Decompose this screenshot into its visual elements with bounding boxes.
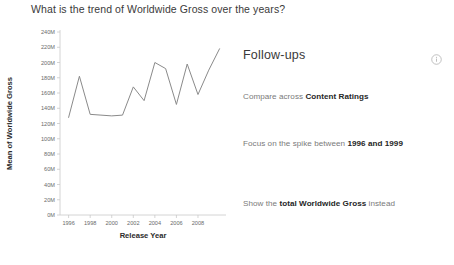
x-axis-title: Release Year (120, 231, 167, 240)
y-tick-label: 100M (41, 136, 55, 142)
line-chart-panel: 0M20M40M60M80M100M120M140M160M180M200M22… (0, 24, 232, 250)
followup-prefix: Compare across (243, 92, 305, 101)
y-tick-label: 180M (41, 75, 55, 81)
y-tick-label: 80M (44, 151, 55, 157)
followup-item[interactable]: Show the total Worldwide Gross instead (243, 197, 443, 210)
x-tick-label: 1996 (62, 220, 74, 226)
y-tick-label: 60M (44, 166, 55, 172)
y-tick-label: 200M (41, 60, 55, 66)
followups-header: Follow-ups (238, 48, 454, 72)
x-tick-label: 2002 (127, 220, 139, 226)
data-series-line (69, 49, 220, 118)
x-tick-label: 2008 (192, 220, 204, 226)
y-axis-ticks: 0M20M40M60M80M100M120M140M160M180M200M22… (41, 29, 60, 218)
y-tick-label: 20M (44, 197, 55, 203)
followup-prefix: Show the (243, 199, 279, 208)
y-tick-label: 40M (44, 182, 55, 188)
y-tick-label: 120M (41, 121, 55, 127)
x-axis-ticks: 1996199820002002200420062008 (62, 215, 204, 226)
chart-followups-screen: What is the trend of Worldwide Gross ove… (0, 0, 454, 265)
followups-panel: Follow-ups Compare across Content Rating… (238, 48, 454, 238)
y-axis-title: Mean of Worldwide Gross (5, 77, 14, 170)
x-tick-label: 2006 (170, 220, 182, 226)
followup-strong: 1996 and 1999 (347, 139, 403, 148)
line-chart: 0M20M40M60M80M100M120M140M160M180M200M22… (0, 24, 232, 250)
followup-prefix: Focus on the spike between (243, 139, 347, 148)
followup-item[interactable]: Compare across Content Ratings (243, 90, 443, 103)
followup-strong: Content Ratings (305, 92, 368, 101)
y-tick-label: 240M (41, 29, 55, 35)
x-tick-label: 1998 (84, 220, 96, 226)
followup-item[interactable]: Focus on the spike between 1996 and 1999 (243, 137, 443, 150)
y-tick-label: 220M (41, 44, 55, 50)
followup-suffix: instead (366, 199, 395, 208)
info-circle-icon[interactable] (431, 51, 442, 62)
y-tick-label: 140M (41, 105, 55, 111)
followups-heading: Follow-ups (243, 48, 305, 62)
x-tick-label: 2000 (106, 220, 118, 226)
x-tick-label: 2004 (149, 220, 161, 226)
page-title: What is the trend of Worldwide Gross ove… (31, 3, 285, 15)
followup-strong: total Worldwide Gross (279, 199, 366, 208)
y-tick-label: 0M (47, 212, 55, 218)
y-tick-label: 160M (41, 90, 55, 96)
